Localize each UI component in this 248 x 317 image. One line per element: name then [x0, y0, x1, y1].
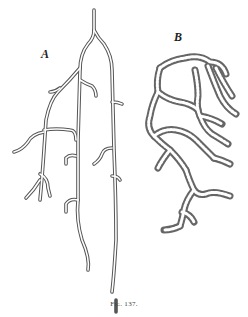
root-illustration-a: [0, 0, 248, 317]
network-illustration-b: [149, 57, 236, 230]
figure-caption: Fig. 137.: [0, 300, 248, 308]
label-a: A: [41, 47, 49, 62]
label-b: B: [174, 30, 182, 45]
